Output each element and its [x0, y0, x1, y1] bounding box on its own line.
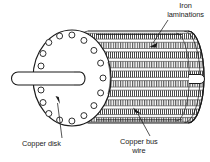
- bolt-hole: [100, 75, 106, 81]
- bolt-hole: [57, 33, 63, 39]
- right-shaft-stub: [189, 75, 205, 84]
- bolt-hole: [69, 32, 75, 38]
- bolt-hole: [40, 51, 46, 57]
- label-copper-disk: Copper disk: [22, 140, 61, 149]
- bolt-hole: [46, 111, 52, 117]
- bolt-hole: [38, 63, 44, 69]
- bolt-hole: [81, 37, 87, 43]
- bolt-hole: [98, 90, 104, 96]
- lamination-band: [84, 109, 206, 114]
- label-copper-bus-wire: Copper bus wire: [120, 138, 158, 155]
- left-shaft-stub: [12, 72, 86, 85]
- bolt-hole: [91, 103, 97, 109]
- bolt-hole: [98, 60, 104, 66]
- label-disk-line1: Copper disk: [22, 140, 61, 149]
- label-iron-laminations: Iron laminations: [167, 2, 204, 19]
- label-iron-line2: laminations: [167, 11, 204, 20]
- bolt-hole: [40, 100, 46, 106]
- bolt-hole: [38, 87, 44, 93]
- bolt-hole: [46, 40, 52, 46]
- bolt-hole: [91, 47, 97, 53]
- bolt-hole: [69, 118, 75, 124]
- rotor-diagram: [0, 0, 210, 162]
- label-bus-line2: wire: [120, 147, 158, 156]
- bolt-hole: [81, 113, 87, 119]
